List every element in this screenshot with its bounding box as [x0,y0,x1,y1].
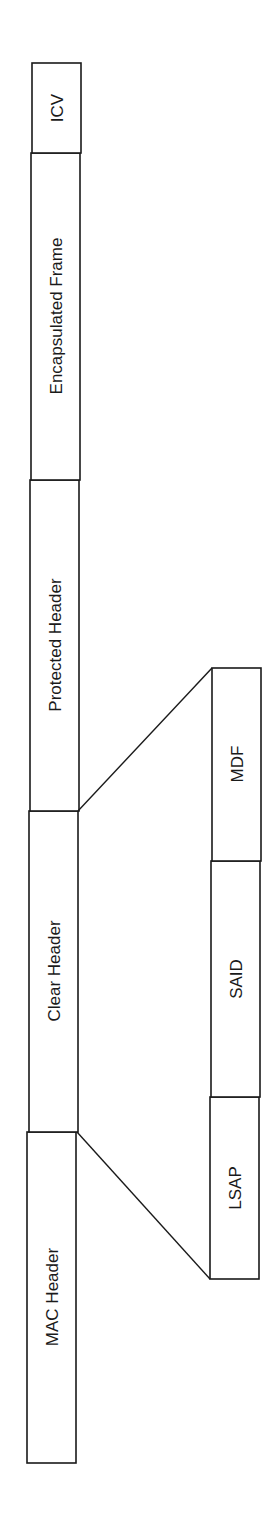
expansion-line-bottom [77,1132,210,1279]
frame-format-diagram: MAC Header Clear Header Protected Header… [0,0,272,1534]
frame-field-protected-header: Protected Header [30,480,79,811]
frame-field-icv: ICV [32,63,81,153]
said-label: SAID [227,959,246,999]
protected-header-label: Protected Header [46,578,65,712]
frame-field-encapsulated-frame: Encapsulated Frame [31,153,80,480]
subfield-said: SAID [211,861,260,1097]
clear-header-label: Clear Header [45,920,64,1021]
mdf-label: MDF [228,746,247,783]
subfield-mdf: MDF [212,668,261,861]
mac-header-label: MAC Header [43,1248,62,1347]
encapsulated-frame-label: Encapsulated Frame [47,238,66,395]
expansion-line-top [78,668,212,811]
lsap-label: LSAP [226,1166,245,1209]
frame-field-mac-header: MAC Header [27,1132,76,1463]
icv-label: ICV [48,93,67,122]
subfield-lsap: LSAP [210,1097,259,1279]
frame-field-clear-header: Clear Header [29,811,78,1132]
